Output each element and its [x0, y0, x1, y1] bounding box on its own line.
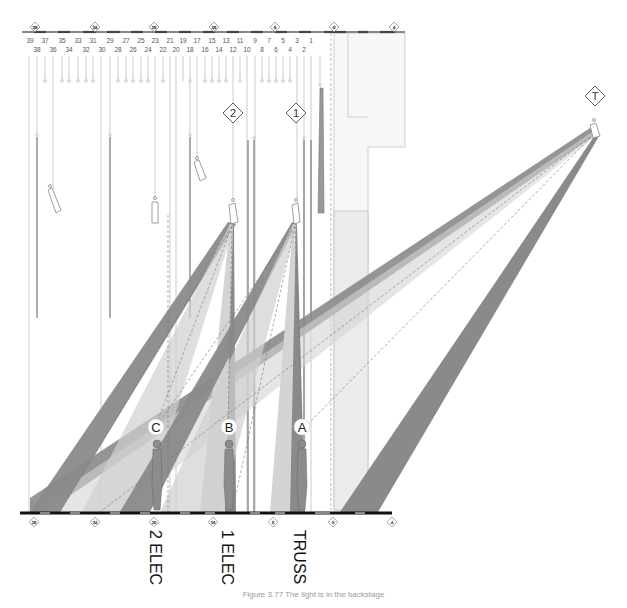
position-label-C: C	[148, 419, 164, 435]
lighting-instrument	[48, 185, 61, 214]
svg-text:13: 13	[222, 37, 230, 44]
lighting-instrument-2	[229, 199, 238, 225]
svg-text:20: 20	[172, 46, 180, 53]
light-beams	[30, 128, 598, 512]
svg-text:37: 37	[41, 37, 49, 44]
rail-marker: 20	[149, 22, 159, 32]
pipe-label-2-elec: 2 ELEC	[147, 530, 164, 585]
svg-text:7: 7	[267, 37, 271, 44]
svg-text:36: 36	[49, 46, 57, 53]
svg-text:30: 30	[98, 46, 106, 53]
bottom-rail-markers: 28 24 20 16 5 0 4	[29, 517, 397, 527]
svg-text:11: 11	[237, 37, 244, 44]
svg-text:24: 24	[93, 520, 98, 525]
rail-marker: 24	[90, 517, 100, 527]
svg-text:31: 31	[89, 37, 97, 44]
svg-text:23: 23	[151, 37, 159, 44]
svg-text:28: 28	[32, 520, 37, 525]
lineset-numbers-bottom: 38 36 34 32 30 28 26 24 22 20 18 16 14 1…	[33, 46, 306, 53]
svg-text:35: 35	[58, 37, 66, 44]
svg-text:16: 16	[211, 520, 216, 525]
svg-text:27: 27	[122, 37, 130, 44]
svg-text:34: 34	[65, 46, 73, 53]
lineset-trim-markers	[36, 80, 322, 140]
svg-text:25: 25	[137, 37, 145, 44]
svg-text:33: 33	[74, 37, 82, 44]
pipe-label-truss: TRUSS	[291, 530, 308, 584]
rail-marker: 5	[270, 22, 280, 32]
lighting-instrument-1	[292, 199, 300, 225]
rail-marker: 24	[90, 22, 100, 32]
rail-marker: 20	[149, 517, 159, 527]
rail-marker: 0	[329, 22, 339, 32]
position-label-B: B	[221, 419, 237, 435]
svg-text:6: 6	[274, 46, 278, 53]
top-rail-markers: 28 24 20 16 5 0 4	[30, 22, 399, 32]
instrument-marker-1: 1	[286, 103, 306, 123]
svg-text:29: 29	[106, 37, 114, 44]
svg-text:26: 26	[129, 46, 137, 53]
svg-text:A: A	[298, 420, 307, 435]
svg-text:9: 9	[253, 37, 257, 44]
svg-text:22: 22	[159, 46, 167, 53]
instrument-marker-2: 2	[223, 103, 243, 123]
svg-text:2: 2	[302, 46, 306, 53]
lighting-instrument	[152, 197, 158, 224]
pipe-label-1-elec: 1 ELEC	[219, 530, 236, 585]
svg-text:4: 4	[288, 46, 292, 53]
svg-text:24: 24	[93, 25, 98, 30]
svg-text:28: 28	[114, 46, 122, 53]
svg-text:24: 24	[144, 46, 152, 53]
svg-text:28: 28	[33, 25, 38, 30]
svg-text:20: 20	[152, 25, 157, 30]
svg-text:14: 14	[215, 46, 223, 53]
svg-text:32: 32	[82, 46, 90, 53]
svg-text:19: 19	[179, 37, 187, 44]
svg-text:16: 16	[212, 25, 217, 30]
rail-marker: 28	[30, 22, 40, 32]
svg-text:16: 16	[201, 46, 209, 53]
lineset-numbers-top: 39 37 35 33 31 29 27 25 23 21 19 17 15 1…	[26, 37, 313, 44]
svg-text:39: 39	[26, 37, 34, 44]
svg-text:15: 15	[208, 37, 216, 44]
svg-text:B: B	[225, 420, 234, 435]
border-masking	[318, 88, 324, 213]
lighting-instrument	[194, 157, 206, 182]
svg-text:18: 18	[186, 46, 194, 53]
svg-text:5: 5	[281, 37, 285, 44]
svg-text:2: 2	[230, 107, 236, 119]
rail-marker: 4	[389, 22, 399, 32]
svg-text:T: T	[592, 90, 599, 102]
actor-figure-A	[297, 440, 307, 510]
instrument-marker-T: T	[585, 86, 605, 106]
position-label-A: A	[294, 419, 310, 435]
svg-text:8: 8	[260, 46, 264, 53]
figure-caption: Figure 3.77 The light is in the backstag…	[0, 590, 627, 599]
rail-marker: 16	[208, 517, 218, 527]
rail-marker: 28	[29, 517, 39, 527]
svg-text:10: 10	[243, 46, 251, 53]
rail-marker: 16	[209, 22, 219, 32]
rail-marker: 0	[328, 517, 338, 527]
actor-figure-B	[224, 440, 234, 510]
rail-marker: 5	[268, 517, 278, 527]
svg-text:3: 3	[295, 37, 299, 44]
svg-text:21: 21	[166, 37, 174, 44]
svg-text:20: 20	[152, 520, 157, 525]
actor-figure-C	[152, 440, 162, 510]
svg-text:17: 17	[193, 37, 201, 44]
svg-text:C: C	[151, 420, 160, 435]
svg-text:38: 38	[33, 46, 41, 53]
svg-text:12: 12	[229, 46, 237, 53]
svg-text:1: 1	[309, 37, 313, 44]
svg-text:1: 1	[293, 107, 299, 119]
rail-marker: 4	[387, 517, 397, 527]
lighting-section-diagram: 28 24 20 16 5 0 4 39 37 35 33 31 29 27 2…	[0, 0, 627, 608]
